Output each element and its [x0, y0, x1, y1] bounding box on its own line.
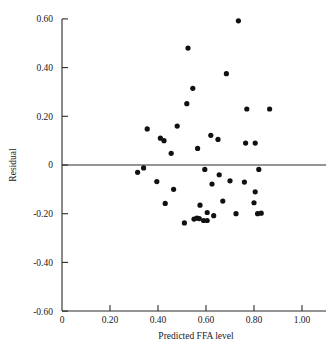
y-tick-label: 0.60 — [36, 14, 53, 24]
data-point — [202, 167, 207, 172]
data-point — [227, 178, 232, 183]
y-tick-label: -0.60 — [33, 307, 53, 317]
data-point — [256, 167, 261, 172]
data-point — [243, 140, 248, 145]
data-point — [220, 198, 225, 203]
data-point — [253, 189, 258, 194]
x-tick-label: 0.40 — [150, 315, 167, 325]
data-point — [135, 170, 140, 175]
data-point — [215, 137, 220, 142]
data-points-layer — [135, 18, 272, 225]
data-point — [253, 140, 258, 145]
x-tick-label: 0.80 — [246, 315, 263, 325]
y-tick-label: 0.20 — [36, 112, 53, 122]
data-point — [208, 133, 213, 138]
data-point — [217, 172, 222, 177]
data-point — [163, 201, 168, 206]
y-tick-label: -0.20 — [33, 209, 53, 219]
data-point — [141, 165, 146, 170]
data-point — [211, 213, 216, 218]
data-point — [190, 86, 195, 91]
data-point — [224, 71, 229, 76]
y-axis-title: Residual — [8, 148, 18, 182]
y-tick-label: -0.40 — [33, 258, 53, 268]
data-point — [242, 179, 247, 184]
data-point — [267, 106, 272, 111]
data-point — [171, 187, 176, 192]
data-point — [161, 138, 166, 143]
data-point — [182, 220, 187, 225]
data-point — [185, 46, 190, 51]
data-point — [197, 203, 202, 208]
scatter-plot-figure: 0.600.400.200-0.20-0.40-0.60 00.200.400.… — [0, 0, 332, 355]
data-point — [233, 211, 238, 216]
x-tick-label: 0.20 — [102, 315, 119, 325]
y-tick-label: 0 — [48, 160, 53, 170]
data-point — [205, 210, 210, 215]
data-point — [184, 101, 189, 106]
data-point — [244, 106, 249, 111]
data-point — [169, 151, 174, 156]
y-tick-label: 0.40 — [36, 63, 53, 73]
data-point — [195, 146, 200, 151]
data-point — [251, 200, 256, 205]
data-point — [236, 18, 241, 23]
data-point — [175, 123, 180, 128]
data-point — [259, 211, 264, 216]
chart-canvas: 0.600.400.200-0.20-0.40-0.60 00.200.400.… — [0, 0, 332, 355]
data-point — [209, 181, 214, 186]
x-axis-title: Predicted FFA level — [158, 331, 234, 341]
x-tick-label: 0.60 — [198, 315, 215, 325]
data-point — [145, 126, 150, 131]
data-point — [205, 218, 210, 223]
x-axis: 00.200.400.600.801.00 — [60, 305, 326, 325]
x-tick-label: 0 — [60, 315, 65, 325]
data-point — [154, 179, 159, 184]
x-tick-label: 1.00 — [294, 315, 311, 325]
